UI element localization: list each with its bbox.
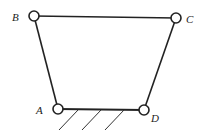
label-d: D: [150, 112, 159, 124]
link-ab: [34, 16, 58, 109]
joint-a: [53, 104, 63, 114]
ground-link-ad: [58, 109, 144, 110]
link-cd: [144, 18, 176, 110]
joint-c: [171, 13, 181, 23]
link-bc: [34, 16, 176, 18]
label-a: A: [35, 104, 43, 116]
label-c: C: [186, 13, 194, 25]
ground-hatch: [59, 110, 124, 130]
joint-b: [29, 11, 39, 21]
label-b: B: [12, 11, 19, 23]
joint-d: [139, 105, 149, 115]
four-bar-linkage-diagram: A B C D: [0, 0, 204, 137]
